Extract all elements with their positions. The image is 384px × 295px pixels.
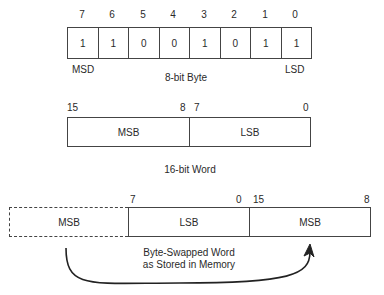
swap-arrow-icon	[0, 0, 384, 295]
